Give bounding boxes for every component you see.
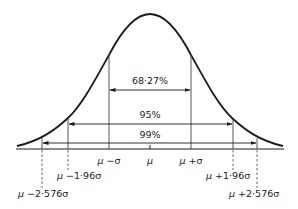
interval-99-label: 99% [139,129,160,140]
label-plus-sigma: μ +σ [178,155,202,166]
label-minus-196: μ −1·96σ [56,170,101,181]
label-plus-196: μ +1·96σ [205,170,250,181]
normal-distribution-diagram: 68·27% 95% 99% μ −σ μ μ +σ μ −1·96σ μ +1… [0,0,298,209]
label-plus-2576: μ +2·576σ [228,188,279,199]
interval-68-label: 68·27% [132,75,168,86]
interval-95-label: 95% [139,109,160,120]
label-minus-sigma: μ −σ [96,155,120,166]
label-minus-2576: μ −2·576σ [17,188,68,199]
label-mean: μ [146,155,153,166]
